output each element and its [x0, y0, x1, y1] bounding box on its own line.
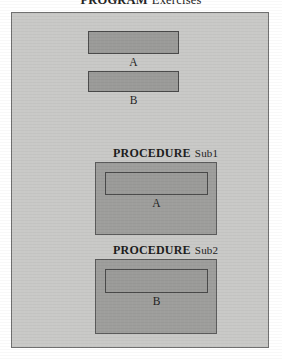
procedure-sub2-keyword: PROCEDURE — [113, 243, 191, 257]
procedure-sub1-statement-a-label: A — [105, 197, 208, 210]
procedure-sub1-keyword: PROCEDURE — [113, 146, 191, 160]
procedure-sub2-caption: PROCEDURE Sub2 — [113, 241, 218, 258]
program-statement-a-box — [88, 31, 179, 54]
program-caption: PROGRAM Exercises — [0, 0, 282, 7]
procedure-sub1-statement-a-box — [105, 172, 208, 195]
program-frame: A B PROCEDURE Sub1 A PROCEDURE Sub2 B — [11, 12, 269, 348]
procedure-sub1-caption: PROCEDURE Sub1 — [113, 144, 218, 161]
procedure-sub2-statement-b-box — [105, 269, 208, 293]
procedure-sub1-name: Sub1 — [195, 147, 218, 159]
program-structure-diagram: PROGRAM Exercises A B PROCEDURE Sub1 A P… — [0, 0, 282, 359]
procedure-sub1-frame: A — [95, 162, 217, 235]
procedure-sub2-name: Sub2 — [195, 244, 218, 256]
program-keyword: PROGRAM — [80, 0, 147, 7]
program-statement-b-label: B — [88, 94, 179, 107]
procedure-sub2-statement-b-label: B — [105, 295, 208, 308]
program-statement-b-box — [88, 71, 179, 92]
program-name: Exercises — [152, 0, 202, 7]
procedure-sub2-frame: B — [95, 259, 217, 334]
program-statement-a-label: A — [88, 56, 179, 69]
